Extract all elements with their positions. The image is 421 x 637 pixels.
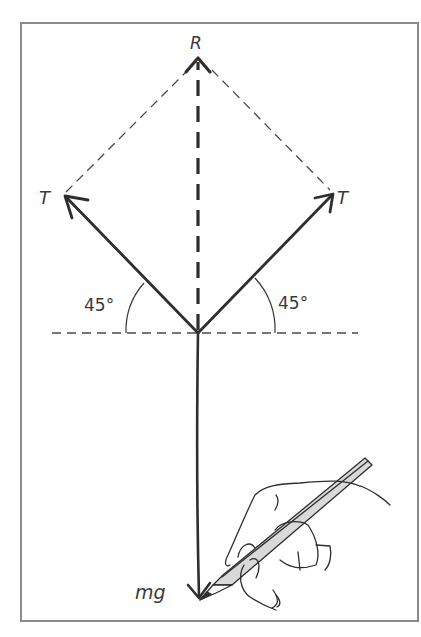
angle-label-left: 45° [84, 295, 114, 315]
angle-label-right: 45° [278, 293, 308, 313]
diagram-frame [21, 23, 418, 621]
label-mg: mg [135, 581, 166, 603]
label-R: R [190, 33, 202, 53]
force-diagram: R T T 45° 45° mg [0, 0, 421, 637]
